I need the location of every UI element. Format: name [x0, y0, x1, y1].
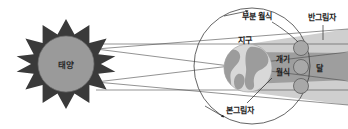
- moon-partial-lower: [294, 79, 309, 94]
- total-eclipse-label-line2: 월식: [276, 67, 290, 77]
- moon-partial-upper: [294, 41, 309, 56]
- diagram-canvas: 태양: [0, 0, 348, 129]
- sun-body: 태양: [17, 19, 116, 109]
- partial-eclipse-label: 부분 월식: [242, 11, 273, 21]
- umbra-label: 본그림자: [226, 105, 255, 115]
- earth-label: 지구: [238, 35, 253, 45]
- sun-label: 태양: [58, 60, 74, 70]
- total-eclipse-label-line1: 개기: [276, 54, 290, 64]
- penumbra-label: 반그림자: [308, 12, 337, 22]
- moon-positions: [294, 41, 309, 94]
- moon-total: [294, 60, 309, 75]
- moon-label: 달: [316, 63, 324, 73]
- lunar-eclipse-diagram: 태양: [0, 0, 348, 129]
- orbit-arrow-bottom: [205, 106, 224, 117]
- earth-body: [223, 44, 272, 92]
